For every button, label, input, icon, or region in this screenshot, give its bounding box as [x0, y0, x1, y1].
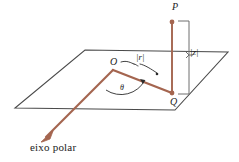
- label-polar-axis: eixo polar: [30, 142, 76, 153]
- label-magnitude-z: |z|: [190, 48, 198, 57]
- r-brace-endpoint-icon: [156, 73, 159, 76]
- theta-angle-arc-icon: [106, 80, 145, 95]
- r-length-brace-icon: [121, 61, 157, 73]
- point-marker-q-icon: [170, 91, 175, 96]
- figure-vector-layer: [0, 0, 239, 162]
- point-marker-p-icon: [170, 20, 175, 25]
- label-origin-o: O: [110, 57, 117, 67]
- label-point-p: P: [172, 2, 178, 12]
- label-point-q: Q: [170, 97, 177, 107]
- figure-canvas: P Q O |r| |z| θ eixo polar: [0, 0, 239, 162]
- z-height-bracket-icon: [178, 21, 189, 94]
- polar-axis-arrow-icon: [46, 70, 113, 137]
- parallelogram-plane-icon: [15, 50, 228, 110]
- label-magnitude-r: |r|: [136, 53, 144, 62]
- label-angle-theta: θ: [120, 84, 124, 92]
